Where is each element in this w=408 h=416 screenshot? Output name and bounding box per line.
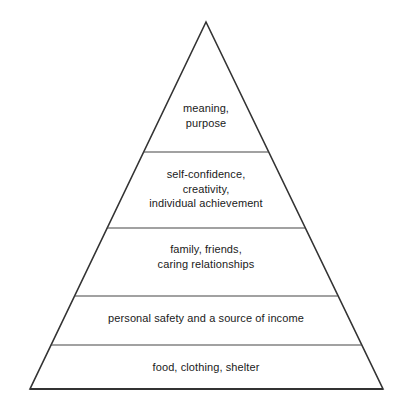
pyramid-tier-label-upper-middle: self-confidence, creativity, individual …	[96, 167, 316, 211]
pyramid-diagram: meaning, purpose self-confidence, creati…	[0, 0, 408, 416]
pyramid-tier-label-top: meaning, purpose	[126, 101, 286, 130]
pyramid-tier-label-middle: family, friends, caring relationships	[86, 242, 326, 271]
pyramid-tier-label-lower-middle: personal safety and a source of income	[56, 311, 356, 326]
pyramid-tier-label-bottom: food, clothing, shelter	[56, 360, 356, 375]
